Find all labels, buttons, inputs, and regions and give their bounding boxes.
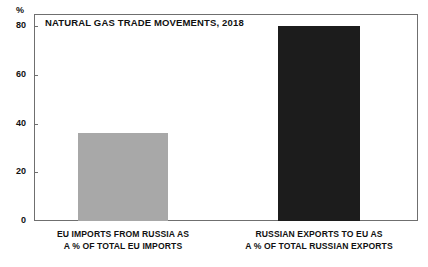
chart-title: NATURAL GAS TRADE MOVEMENTS, 2018 [45,17,244,28]
category-label-line-2: A % OF TOTAL RUSSIAN EXPORTS [210,240,428,252]
y-axis-tick-label: 80 [16,20,26,31]
bar[interactable] [278,26,360,221]
category-label-line-1: EU IMPORTS FROM RUSSIA AS [18,228,228,240]
y-axis-tick-mark [34,26,38,27]
y-axis-tick-label: 0 [21,215,26,226]
y-axis-unit-label: % [16,5,24,15]
category-label-line-1: RUSSIAN EXPORTS TO EU AS [210,228,428,240]
y-axis-tick-label: 60 [16,69,26,80]
y-axis-tick-mark [34,172,38,173]
y-axis-tick-mark [34,75,38,76]
natural-gas-trade-chart: % NATURAL GAS TRADE MOVEMENTS, 2018 8060… [0,0,428,267]
y-axis-tick-mark [34,124,38,125]
category-label-line-2: A % OF TOTAL EU IMPORTS [18,240,228,252]
y-axis-tick-label: 40 [16,118,26,129]
x-axis-category-label: RUSSIAN EXPORTS TO EU ASA % OF TOTAL RUS… [210,228,428,252]
y-axis-tick-label: 20 [16,166,26,177]
x-axis-category-label: EU IMPORTS FROM RUSSIA ASA % OF TOTAL EU… [18,228,228,252]
bar[interactable] [78,133,168,221]
